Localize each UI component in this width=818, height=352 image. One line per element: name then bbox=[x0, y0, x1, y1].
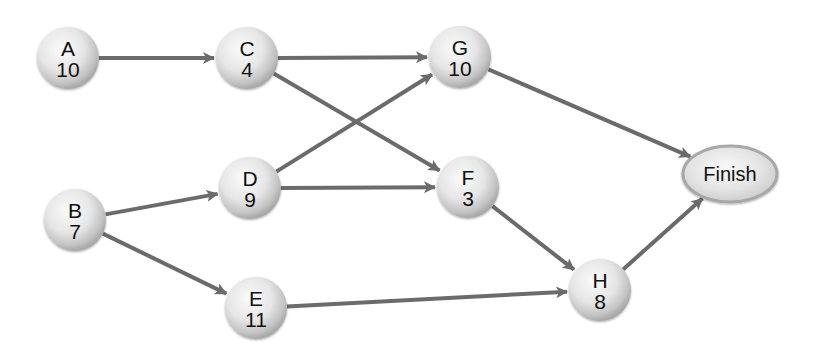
network-diagram: A10B7C4D9E11F3G10H8Finish bbox=[0, 0, 818, 352]
nodes-layer: A10B7C4D9E11F3G10H8Finish bbox=[37, 26, 777, 339]
node-label: G bbox=[452, 36, 468, 59]
node-duration: 7 bbox=[69, 220, 81, 243]
finish-label: Finish bbox=[703, 163, 756, 185]
node-duration: 11 bbox=[245, 308, 267, 331]
node-label: E bbox=[249, 287, 263, 310]
node-duration: 3 bbox=[462, 187, 474, 210]
node-duration: 8 bbox=[594, 290, 606, 313]
edge-h-to-finish-arrow bbox=[623, 199, 702, 270]
edge-b-to-d-arrow bbox=[106, 194, 218, 215]
node-label: A bbox=[61, 37, 75, 60]
node-duration: 9 bbox=[244, 188, 256, 211]
node-duration: 10 bbox=[56, 58, 79, 81]
activity-node-g: G10 bbox=[429, 26, 491, 88]
edge-b-to-e-arrow bbox=[103, 234, 226, 294]
node-label: F bbox=[462, 166, 475, 189]
edge-c-to-g-arrow bbox=[278, 57, 427, 58]
edge-d-to-f-arrow bbox=[281, 187, 435, 188]
node-duration: 4 bbox=[241, 58, 253, 81]
edge-g-to-finish-arrow bbox=[488, 69, 690, 156]
activity-node-e: E11 bbox=[225, 277, 287, 339]
activity-node-b: B7 bbox=[44, 189, 106, 251]
node-label: C bbox=[239, 37, 254, 60]
node-label: B bbox=[68, 199, 82, 222]
activity-node-c: C4 bbox=[216, 27, 278, 89]
node-duration: 10 bbox=[448, 57, 471, 80]
node-label: D bbox=[242, 167, 257, 190]
edge-e-to-h-arrow bbox=[287, 292, 567, 307]
activity-node-f: F3 bbox=[437, 156, 499, 218]
node-label: H bbox=[592, 269, 607, 292]
activity-node-h: H8 bbox=[569, 259, 631, 321]
edge-f-to-h-arrow bbox=[492, 206, 574, 270]
activity-node-d: D9 bbox=[219, 157, 281, 219]
activity-node-a: A10 bbox=[37, 27, 99, 89]
finish-node: Finish bbox=[683, 146, 777, 202]
